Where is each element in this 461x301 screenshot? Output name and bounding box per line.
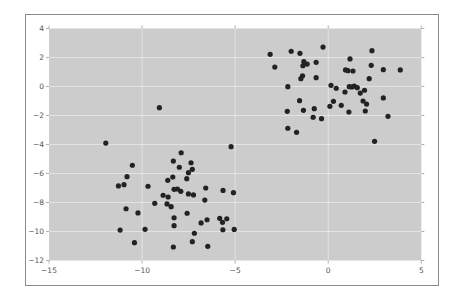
data-point: [190, 239, 195, 244]
data-point: [289, 49, 294, 54]
data-point: [328, 83, 333, 88]
data-point: [364, 101, 369, 106]
y-tick-label: 4: [39, 24, 44, 33]
data-point: [363, 108, 368, 113]
y-tick-label: −12: [28, 256, 44, 265]
data-point: [179, 150, 184, 155]
data-point: [169, 204, 174, 209]
y-tick-label: −2: [33, 111, 44, 120]
data-point: [132, 240, 137, 245]
data-point: [298, 76, 303, 81]
data-point: [224, 216, 229, 221]
data-point: [204, 217, 209, 222]
data-point: [347, 56, 352, 61]
data-point: [171, 215, 176, 220]
data-point: [294, 130, 299, 135]
data-point: [314, 60, 319, 65]
data-point: [385, 114, 390, 119]
data-point: [220, 188, 225, 193]
data-point: [268, 52, 273, 57]
data-point: [346, 109, 351, 114]
data-point: [297, 98, 302, 103]
data-point: [171, 158, 176, 163]
data-point: [170, 174, 175, 179]
x-tick-label: −15: [41, 266, 57, 275]
y-tick-label: −8: [33, 198, 44, 207]
y-tick-label: −10: [28, 227, 44, 236]
data-point: [165, 178, 170, 183]
data-point: [121, 182, 126, 187]
data-point: [319, 116, 324, 121]
x-tick-label: −5: [230, 266, 241, 275]
data-point: [157, 105, 162, 110]
data-point: [171, 244, 176, 249]
data-point: [300, 63, 305, 68]
y-tick-label: 2: [39, 53, 44, 62]
data-point: [220, 227, 225, 232]
data-point: [381, 67, 386, 72]
data-point: [232, 227, 237, 232]
data-point: [327, 104, 332, 109]
scatter-figure: −15−10−505 420−2−4−6−8−10−12: [0, 0, 461, 301]
data-point: [331, 99, 336, 104]
data-point: [334, 86, 339, 91]
y-tick-label: −4: [33, 140, 44, 149]
data-point: [103, 140, 108, 145]
data-point: [184, 176, 189, 181]
data-point: [367, 76, 372, 81]
data-point: [152, 201, 157, 206]
data-point: [202, 197, 207, 202]
data-point: [123, 206, 128, 211]
data-point: [320, 44, 325, 49]
data-point: [362, 88, 367, 93]
data-point: [142, 227, 147, 232]
y-tick-label: −6: [33, 169, 44, 178]
data-point: [118, 227, 123, 232]
data-point: [285, 126, 290, 131]
data-point: [301, 108, 306, 113]
data-point: [369, 63, 374, 68]
data-point: [311, 115, 316, 120]
data-point: [185, 211, 190, 216]
data-point: [372, 139, 377, 144]
data-point: [178, 189, 183, 194]
data-point: [339, 103, 344, 108]
data-point: [192, 231, 197, 236]
data-point: [342, 89, 347, 94]
data-point: [124, 174, 129, 179]
data-point: [345, 68, 350, 73]
data-point: [312, 106, 317, 111]
data-point: [350, 68, 355, 73]
data-point: [130, 163, 135, 168]
data-point: [135, 210, 140, 215]
data-point: [358, 90, 363, 95]
data-point: [205, 244, 210, 249]
data-point: [285, 109, 290, 114]
data-point: [314, 75, 319, 80]
data-point: [381, 95, 386, 100]
x-tick-label: 5: [419, 266, 424, 275]
data-point: [171, 223, 176, 228]
y-tick-label: 0: [39, 82, 44, 91]
data-point: [198, 220, 203, 225]
data-point: [116, 183, 121, 188]
data-point: [188, 160, 193, 165]
data-point: [166, 194, 171, 199]
data-point: [203, 185, 208, 190]
data-point: [161, 193, 166, 198]
data-point: [285, 84, 290, 89]
x-tick-label: 0: [326, 266, 331, 275]
data-point: [297, 51, 302, 56]
x-tick-label: −10: [134, 266, 150, 275]
data-point: [145, 184, 150, 189]
data-point: [272, 64, 277, 69]
data-point: [177, 165, 182, 170]
data-point: [355, 85, 360, 90]
data-point: [231, 190, 236, 195]
data-point: [228, 144, 233, 149]
data-point: [220, 220, 225, 225]
data-point: [186, 170, 191, 175]
data-point: [398, 67, 403, 72]
data-point: [186, 191, 191, 196]
data-point: [369, 48, 374, 53]
